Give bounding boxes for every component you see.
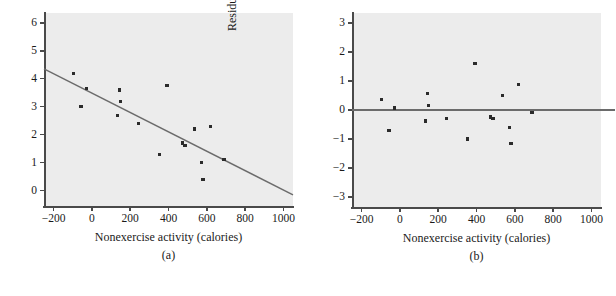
data-point bbox=[85, 87, 88, 90]
y-tick-label-b-1: −2 bbox=[333, 162, 345, 174]
x-tick-b-4 bbox=[514, 208, 516, 212]
y-tick-label-a-6: 6 bbox=[31, 17, 37, 29]
data-point bbox=[183, 144, 186, 147]
y-tick-label-b-3: 0 bbox=[339, 104, 345, 116]
residual-zero-line-b bbox=[352, 109, 615, 110]
y-tick-b-2 bbox=[348, 138, 352, 140]
y-tick-b-1 bbox=[348, 167, 352, 169]
data-point bbox=[501, 94, 504, 97]
data-point bbox=[119, 100, 122, 103]
y-tick-b-4 bbox=[348, 80, 352, 82]
data-point bbox=[165, 84, 168, 87]
data-point bbox=[445, 117, 448, 120]
x-tick-a-0 bbox=[53, 207, 55, 211]
y-tick-a-0 bbox=[40, 190, 44, 192]
x-axis-title-a: Nonexercise activity (calories) bbox=[59, 230, 279, 245]
y-tick-a-5 bbox=[40, 50, 44, 52]
data-point bbox=[530, 111, 533, 114]
data-point bbox=[424, 119, 427, 122]
data-point bbox=[79, 105, 82, 108]
y-tick-label-a-5: 5 bbox=[31, 45, 37, 57]
panel-caption-a: (a) bbox=[109, 248, 229, 263]
y-tick-label-b-2: −1 bbox=[333, 133, 345, 145]
y-tick-label-b-4: 1 bbox=[339, 75, 345, 87]
data-point bbox=[426, 92, 429, 95]
y-tick-a-6 bbox=[40, 22, 44, 24]
data-point bbox=[473, 62, 476, 65]
y-tick-a-2 bbox=[40, 134, 44, 136]
x-tick-a-6 bbox=[283, 207, 285, 211]
x-tick-a-4 bbox=[206, 207, 208, 211]
data-point bbox=[466, 137, 469, 140]
y-tick-a-1 bbox=[40, 162, 44, 164]
x-tick-label-b-6: 1000 bbox=[566, 214, 616, 226]
y-tick-b-3 bbox=[348, 109, 352, 111]
x-tick-b-3 bbox=[476, 208, 478, 212]
y-tick-b-6 bbox=[348, 22, 352, 24]
x-tick-b-0 bbox=[361, 208, 363, 212]
data-point bbox=[491, 117, 494, 120]
y-tick-label-b-0: −3 bbox=[333, 191, 345, 203]
data-point bbox=[200, 161, 203, 164]
y-axis-title-b: Residual bbox=[225, 0, 240, 110]
data-point bbox=[201, 178, 204, 181]
y-tick-a-3 bbox=[40, 106, 44, 108]
y-tick-label-a-1: 1 bbox=[31, 157, 37, 169]
data-point bbox=[118, 88, 121, 91]
y-tick-label-a-4: 4 bbox=[31, 73, 37, 85]
x-tick-b-2 bbox=[437, 208, 439, 212]
data-point bbox=[387, 129, 390, 132]
data-point bbox=[380, 98, 383, 101]
data-point bbox=[509, 142, 512, 145]
data-point bbox=[72, 72, 75, 75]
data-point bbox=[393, 106, 396, 109]
y-tick-label-b-5: 2 bbox=[339, 46, 345, 58]
data-point bbox=[209, 125, 212, 128]
x-tick-label-a-6: 1000 bbox=[258, 213, 308, 225]
y-tick-label-a-2: 2 bbox=[31, 129, 37, 141]
data-point bbox=[427, 104, 430, 107]
data-point bbox=[116, 114, 119, 117]
x-tick-b-6 bbox=[591, 208, 593, 212]
x-tick-b-5 bbox=[552, 208, 554, 212]
panel-caption-b: (b) bbox=[417, 249, 537, 264]
y-tick-label-a-3: 3 bbox=[31, 101, 37, 113]
data-point bbox=[222, 158, 225, 161]
x-tick-a-2 bbox=[129, 207, 131, 211]
x-tick-b-1 bbox=[399, 208, 401, 212]
y-tick-b-5 bbox=[348, 51, 352, 53]
x-tick-a-5 bbox=[244, 207, 246, 211]
x-axis-title-b: Nonexercise activity (calories) bbox=[367, 231, 587, 246]
panel-b-residual-plot: −3−2−10123−20002004006008001000 Residual… bbox=[307, 0, 614, 296]
x-tick-a-1 bbox=[91, 207, 93, 211]
y-tick-b-0 bbox=[348, 196, 352, 198]
data-point bbox=[193, 127, 196, 130]
y-tick-label-b-6: 3 bbox=[339, 17, 345, 29]
data-point bbox=[508, 126, 511, 129]
x-tick-a-3 bbox=[168, 207, 170, 211]
y-tick-a-4 bbox=[40, 78, 44, 80]
data-point bbox=[517, 83, 520, 86]
data-point bbox=[158, 153, 161, 156]
y-tick-label-a-0: 0 bbox=[31, 185, 37, 197]
panel-a-scatterplot: 0123456−20002004006008001000 Fat gain (k… bbox=[0, 0, 307, 296]
data-point bbox=[137, 122, 140, 125]
